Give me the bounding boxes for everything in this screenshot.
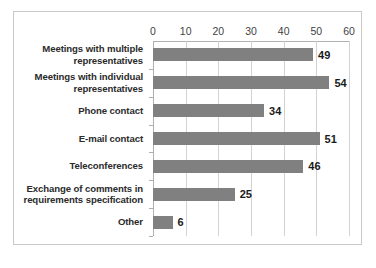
bar [153, 132, 320, 145]
category-label: Exchange of comments in requirements spe… [11, 183, 143, 206]
category-axis-tick [149, 236, 153, 237]
bar-row: 51 [153, 132, 349, 145]
category-label: E-mail contact [11, 133, 143, 145]
value-axis-tick-label: 20 [203, 25, 233, 38]
bar-value-label: 54 [329, 77, 346, 89]
category-label: Teleconferences [11, 160, 143, 172]
bar [153, 160, 303, 173]
bar-row: 49 [153, 48, 349, 61]
plot-area: 4954345146256 [153, 41, 349, 236]
category-label: Other [11, 216, 143, 228]
bar-row: 54 [153, 76, 349, 89]
category-label: Meetings with multiple representatives [11, 43, 143, 66]
bar-row: 25 [153, 188, 349, 201]
bar [153, 48, 313, 61]
bar-value-label: 34 [264, 105, 281, 117]
bar-value-label: 25 [235, 188, 252, 200]
bar [153, 76, 329, 89]
value-axis-tick-label: 10 [171, 25, 201, 38]
chart-container: 0102030405060 Meetings with multiple rep… [13, 11, 362, 245]
value-axis-tick-label: 50 [301, 25, 331, 38]
bar [153, 104, 264, 117]
bar-row: 46 [153, 160, 349, 173]
bar-value-label: 6 [173, 216, 184, 228]
bar [153, 216, 173, 229]
bar-value-label: 51 [320, 133, 337, 145]
category-label: Phone contact [11, 105, 143, 117]
bar-row: 34 [153, 104, 349, 117]
bar [153, 188, 235, 201]
bar-value-label: 49 [313, 49, 330, 61]
value-axis-tick-label: 60 [334, 25, 364, 38]
gridline [349, 41, 350, 236]
value-axis-tick-label: 30 [236, 25, 266, 38]
value-axis-tick-label: 40 [269, 25, 299, 38]
bar-row: 6 [153, 216, 349, 229]
value-axis-tick-label: 0 [138, 25, 168, 38]
bar-value-label: 46 [303, 160, 320, 172]
category-label: Meetings with individual representatives [11, 71, 143, 94]
